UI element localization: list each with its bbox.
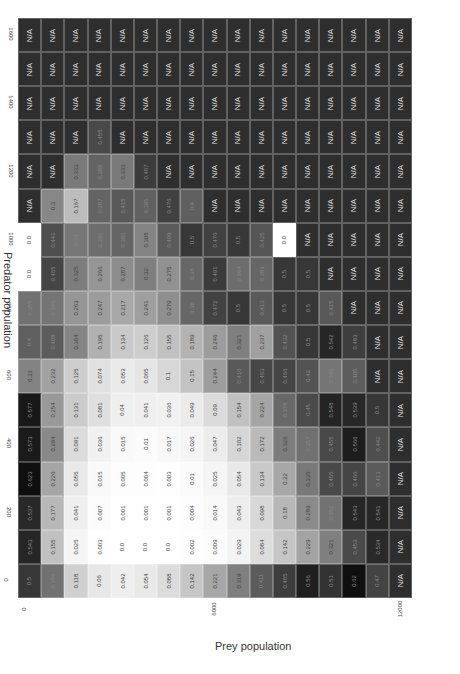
heatmap-cell: N/A bbox=[157, 86, 180, 120]
heatmap-cell: N/A bbox=[203, 154, 226, 188]
heatmap-cell: 0.266 bbox=[88, 257, 111, 291]
heatmap-cell: 0.294 bbox=[41, 427, 64, 461]
heatmap-cell: 0.405 bbox=[342, 359, 365, 393]
heatmap-cell: N/A bbox=[41, 154, 64, 188]
heatmap-cell: 0.102 bbox=[227, 427, 250, 461]
heatmap-cell: 0.055 bbox=[64, 462, 87, 496]
heatmap-cell: 0.026 bbox=[180, 427, 203, 461]
heatmap-cell: 0.15 bbox=[180, 359, 203, 393]
heatmap-cell: N/A bbox=[18, 86, 41, 120]
heatmap-cell: N/A bbox=[366, 223, 389, 257]
heatmap-cell: N/A bbox=[296, 18, 319, 52]
x-tick: 0 bbox=[20, 607, 26, 610]
heatmap-cell: N/A bbox=[64, 120, 87, 154]
heatmap-cell: 0.566 bbox=[342, 427, 365, 461]
heatmap-cell: 0.279 bbox=[157, 291, 180, 325]
heatmap-cell: 0.34 bbox=[64, 223, 87, 257]
heatmap-cell: 0.5 bbox=[366, 393, 389, 427]
heatmap-cell: 0.5 bbox=[273, 257, 296, 291]
heatmap-cell: 0.4 bbox=[180, 189, 203, 223]
heatmap-cell: 0.014 bbox=[203, 496, 226, 530]
heatmap-cell: 0.325 bbox=[64, 257, 87, 291]
heatmap-cell: 0.017 bbox=[157, 427, 180, 461]
heatmap-cell: 0.543 bbox=[18, 530, 41, 564]
heatmap-cell: 0.304 bbox=[64, 325, 87, 359]
heatmap-cell: 0.364 bbox=[227, 257, 250, 291]
heatmap-cell: 0.43 bbox=[296, 359, 319, 393]
heatmap-cell: 0.0 bbox=[134, 530, 157, 564]
heatmap-cell: 0.004 bbox=[180, 496, 203, 530]
heatmap-cell: N/A bbox=[41, 86, 64, 120]
heatmap-cell: N/A bbox=[250, 52, 273, 86]
heatmap-cell: N/A bbox=[366, 120, 389, 154]
heatmap-cell: N/A bbox=[88, 18, 111, 52]
heatmap-cell: N/A bbox=[203, 18, 226, 52]
heatmap-cell: N/A bbox=[64, 52, 87, 86]
heatmap-cell: N/A bbox=[157, 120, 180, 154]
heatmap-cell: 0.5 bbox=[180, 223, 203, 257]
heatmap-cell: N/A bbox=[273, 120, 296, 154]
heatmap-cell: N/A bbox=[389, 462, 412, 496]
heatmap-cell: 0.043 bbox=[227, 496, 250, 530]
heatmap-cell: 0.118 bbox=[64, 564, 87, 598]
heatmap-cell: N/A bbox=[111, 120, 134, 154]
heatmap-cell: 0.001 bbox=[111, 496, 134, 530]
heatmap-cell: N/A bbox=[64, 86, 87, 120]
heatmap-cell: N/A bbox=[342, 291, 365, 325]
heatmap-cell: N/A bbox=[319, 189, 342, 223]
heatmap-cell: 0.491 bbox=[203, 257, 226, 291]
heatmap-cell: 0.221 bbox=[203, 564, 226, 598]
heatmap-cell: N/A bbox=[319, 86, 342, 120]
heatmap-cell: 0.416 bbox=[227, 359, 250, 393]
heatmap-cell: 0.45 bbox=[296, 393, 319, 427]
heatmap-cell: N/A bbox=[157, 52, 180, 86]
heatmap-cell: N/A bbox=[389, 257, 412, 291]
heatmap-cell: 0.054 bbox=[134, 564, 157, 598]
heatmap-cell: 0.029 bbox=[227, 530, 250, 564]
heatmap-cell: 0.472 bbox=[203, 291, 226, 325]
heatmap-cell: N/A bbox=[389, 530, 412, 564]
heatmap-cell: N/A bbox=[250, 86, 273, 120]
heatmap-cell: N/A bbox=[18, 154, 41, 188]
heatmap-cell: 0.333 bbox=[111, 154, 134, 188]
heatmap-cell: 0.415 bbox=[319, 291, 342, 325]
heatmap-cell: N/A bbox=[134, 18, 157, 52]
heatmap-cell: N/A bbox=[366, 52, 389, 86]
heatmap-cell: 0.091 bbox=[64, 427, 87, 461]
heatmap-cell: N/A bbox=[250, 154, 273, 188]
heatmap-cell: 0.465 bbox=[41, 257, 64, 291]
heatmap-cell: 0.007 bbox=[88, 496, 111, 530]
heatmap-cell: 0.408 bbox=[41, 325, 64, 359]
heatmap-cell: 0.308 bbox=[134, 223, 157, 257]
heatmap-cell: N/A bbox=[41, 18, 64, 52]
heatmap-cell: N/A bbox=[203, 52, 226, 86]
heatmap-cell: 0.247 bbox=[88, 291, 111, 325]
heatmap-cell: N/A bbox=[273, 154, 296, 188]
heatmap-cell: 0.455 bbox=[319, 427, 342, 461]
heatmap-cell: 0.548 bbox=[319, 393, 342, 427]
heatmap-cell: N/A bbox=[134, 120, 157, 154]
heatmap-cell: 0.32 bbox=[134, 257, 157, 291]
heatmap-cell: N/A bbox=[111, 86, 134, 120]
heatmap-cell: 0.356 bbox=[41, 564, 64, 598]
heatmap-cell: N/A bbox=[180, 120, 203, 154]
heatmap-cell: 0.0 bbox=[18, 257, 41, 291]
heatmap-cell: N/A bbox=[273, 18, 296, 52]
heatmap-cell: N/A bbox=[366, 359, 389, 393]
heatmap-cell: 0.167 bbox=[64, 189, 87, 223]
heatmap-cell: 0.5 bbox=[296, 257, 319, 291]
heatmap-cell: N/A bbox=[273, 52, 296, 86]
heatmap-cell: 0.047 bbox=[203, 427, 226, 461]
heatmap-cell: 0.04 bbox=[111, 393, 134, 427]
heatmap-cell: 0.441 bbox=[41, 223, 64, 257]
heatmap-cell: 0.189 bbox=[180, 325, 203, 359]
heatmap-cell: N/A bbox=[366, 189, 389, 223]
heatmap-cell: N/A bbox=[389, 393, 412, 427]
heatmap-cell: 0.543 bbox=[342, 496, 365, 530]
heatmap-cell: N/A bbox=[64, 18, 87, 52]
heatmap-cell: 0.0 bbox=[157, 530, 180, 564]
heatmap-cell: 0.466 bbox=[342, 462, 365, 496]
y-tick: 1400 bbox=[8, 96, 14, 109]
heatmap-cell: 0.015 bbox=[111, 427, 134, 461]
heatmap-cell: 0.345 bbox=[319, 359, 342, 393]
